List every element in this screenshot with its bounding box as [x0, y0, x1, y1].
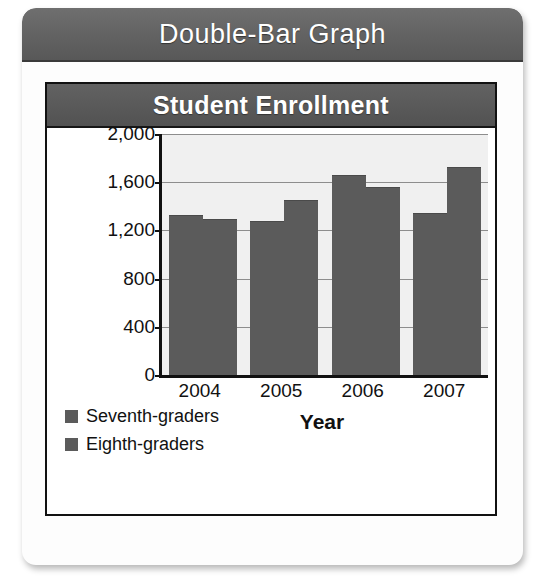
bar-group	[250, 134, 318, 375]
legend-item: Seventh-graders	[65, 406, 219, 427]
legend-swatch-icon	[65, 438, 78, 451]
bar	[366, 187, 400, 375]
bar-group	[413, 134, 481, 375]
y-axis-tick-label: 400	[123, 316, 155, 338]
bar	[413, 213, 447, 375]
bar	[169, 215, 203, 375]
y-axis-tick-labels: 04008001,2001,6002,000	[81, 128, 155, 396]
bar-group	[332, 134, 400, 375]
y-axis-tick	[155, 230, 162, 232]
bars-layer	[162, 134, 488, 375]
bar	[284, 200, 318, 375]
bar	[447, 167, 481, 375]
bar	[250, 221, 284, 375]
legend-item: Eighth-graders	[65, 434, 219, 455]
chart-panel: Student Enrollment Number of students 04…	[45, 82, 497, 516]
legend-swatch-icon	[65, 410, 78, 423]
plot-area	[159, 134, 488, 378]
y-axis-tick	[155, 327, 162, 329]
y-axis-tick-label: 2,000	[107, 123, 155, 145]
chart-legend: Seventh-gradersEighth-graders	[65, 406, 219, 462]
y-axis-tick	[155, 182, 162, 184]
x-axis-tick-label: 2006	[329, 380, 397, 402]
y-axis-tick	[155, 134, 162, 136]
legend-label: Seventh-graders	[86, 406, 219, 427]
card-header: Double-Bar Graph	[22, 8, 523, 62]
bar	[203, 219, 237, 375]
x-axis-tick-labels: 2004200520062007	[159, 380, 485, 402]
plot-wrap: Number of students 04008001,2001,6002,00…	[47, 128, 495, 518]
bar-group	[169, 134, 237, 375]
y-axis-tick-label: 1,600	[107, 171, 155, 193]
y-axis-tick-label: 1,200	[107, 219, 155, 241]
chart-title-bar: Student Enrollment	[47, 84, 495, 128]
chart-title: Student Enrollment	[153, 91, 389, 120]
bar	[332, 175, 366, 375]
card-header-title: Double-Bar Graph	[159, 19, 386, 50]
x-axis-tick-label: 2005	[247, 380, 315, 402]
legend-label: Eighth-graders	[86, 434, 204, 455]
y-axis-tick	[155, 375, 162, 377]
x-axis-tick-label: 2004	[166, 380, 234, 402]
y-axis-tick-label: 0	[144, 364, 155, 386]
worksheet-card: Double-Bar Graph Student Enrollment Numb…	[22, 8, 523, 565]
y-axis-tick-label: 800	[123, 268, 155, 290]
x-axis-tick-label: 2007	[410, 380, 478, 402]
y-axis-tick	[155, 279, 162, 281]
